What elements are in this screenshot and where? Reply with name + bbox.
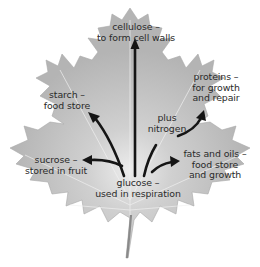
label-sucrose: sucrose – stored in fruit (20, 155, 92, 176)
label-fats-line1: fats and oils – (172, 149, 258, 160)
label-starch-line1: starch – (36, 90, 98, 101)
label-sucrose-line1: sucrose – (20, 155, 92, 166)
label-nitrogen: plus nitrogen (144, 113, 190, 134)
label-cellulose-line2: to form cell walls (90, 33, 182, 44)
label-nitrogen-line1: plus (144, 113, 190, 124)
label-cellulose-line1: cellulose – (90, 22, 182, 33)
label-proteins-line3: and repair (186, 93, 246, 104)
leaf-diagram: cellulose – to form cell walls starch – … (0, 0, 260, 267)
label-glucose-line2: used in respiration (88, 189, 188, 200)
label-cellulose: cellulose – to form cell walls (90, 22, 182, 43)
label-glucose-line1: glucose – (88, 178, 188, 189)
label-starch: starch – food store (36, 90, 98, 111)
label-starch-line2: food store (36, 101, 98, 112)
label-fats: fats and oils – food store and growth (172, 149, 258, 181)
label-sucrose-line2: stored in fruit (20, 166, 92, 177)
label-proteins-line1: proteins – (186, 72, 246, 83)
label-nitrogen-line2: nitrogen (144, 124, 190, 135)
label-glucose: glucose – used in respiration (88, 178, 188, 199)
label-proteins: proteins – for growth and repair (186, 72, 246, 104)
